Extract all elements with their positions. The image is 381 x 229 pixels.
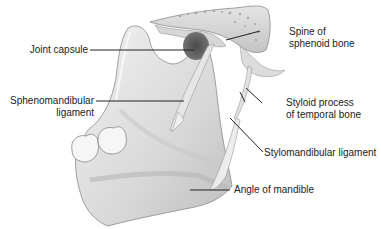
label-joint-capsule: Joint capsule [12, 44, 88, 56]
label-sphenomandibular-line2: ligament [4, 107, 94, 119]
label-spine-line2: sphenoid bone [289, 38, 355, 50]
label-angle-of-mandible: Angle of mandible [234, 184, 314, 196]
label-styloid-line1: Styloid process [286, 97, 354, 109]
label-sphenomandibular-line1: Sphenomandibular [4, 95, 94, 107]
styloid-process-shape [234, 66, 252, 120]
label-stylomandibular: Stylomandibular ligament [264, 147, 376, 159]
mandible-diagram: Joint capsule Sphenomandibular ligament … [0, 0, 381, 229]
label-spine-line1: Spine of [289, 26, 326, 38]
label-styloid-line2: of temporal bone [286, 109, 361, 121]
